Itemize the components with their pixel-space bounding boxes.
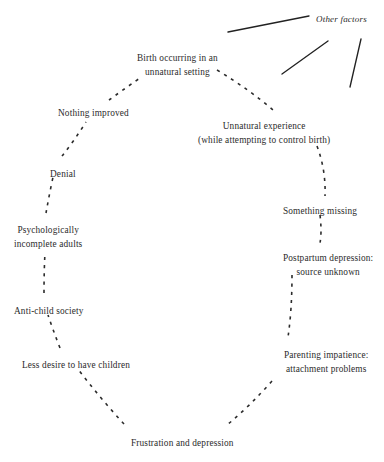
edge-frustration-to-less-desire [78, 369, 124, 424]
node-label-line: Something missing [283, 205, 357, 219]
edge-unnatural-exp-to-something-missing [317, 146, 325, 196]
node-nothing-improved: Nothing improved [58, 107, 129, 121]
node-label-line: Parenting impatience: [284, 349, 368, 363]
edge-anti-child-to-incomplete-adults [44, 252, 45, 293]
node-psychologically-incomplete-adults: Psychologicallyincomplete adults [14, 224, 82, 251]
node-label-line: Denial [50, 168, 76, 182]
node-label-line: Birth occurring in an [137, 52, 218, 66]
solid-arrow-group [228, 16, 361, 87]
node-label-line: unnatural setting [137, 66, 218, 80]
edge-nothing-improved-to-birth [109, 78, 140, 100]
other-factors-line-3 [350, 39, 361, 87]
node-label-line: Psychologically [14, 224, 82, 238]
other-factors-line-1 [228, 16, 309, 32]
cycle-diagram-canvas: reproductive psychology cycle Birth occu… [0, 0, 384, 462]
node-birth-unnatural-setting: Birth occurring in anunnatural setting [137, 52, 218, 79]
edge-incomplete-adults-to-denial [46, 177, 53, 213]
node-label-line: Nothing improved [58, 107, 129, 121]
edge-parenting-to-frustration [227, 381, 272, 425]
edge-something-missing-to-postpartum [320, 215, 321, 243]
other-factors-label: Other factors [316, 14, 367, 24]
node-postpartum-depression: Postpartum depression:source unknown [283, 252, 373, 279]
other-factors-line-2 [282, 41, 328, 74]
node-label-line: source unknown [283, 266, 373, 280]
node-label-line: (while attempting to control birth) [198, 134, 330, 148]
node-parenting-impatience: Parenting impatience:attachment problems [284, 349, 368, 376]
node-frustration-depression: Frustration and depression [131, 437, 234, 451]
edge-birth-to-unnatural-exp [217, 70, 273, 110]
node-something-missing: Something missing [283, 205, 357, 219]
node-unnatural-experience: Unnatural experience(while attempting to… [198, 120, 330, 147]
edge-postpartum-to-parenting [288, 275, 292, 337]
node-label-line: Anti-child society [14, 305, 84, 319]
node-label-line: Postpartum depression: [283, 252, 373, 266]
node-label-line: Frustration and depression [131, 437, 234, 451]
node-denial: Denial [50, 168, 76, 182]
edge-less-desire-to-anti-child [48, 315, 60, 348]
node-label-line: Unnatural experience [198, 120, 330, 134]
node-label-line: incomplete adults [14, 238, 82, 252]
node-label-line: Less desire to have children [22, 359, 130, 373]
node-label-line: attachment problems [284, 363, 368, 377]
edge-denial-to-nothing-improved [62, 122, 86, 156]
node-less-desire-children: Less desire to have children [22, 359, 130, 373]
node-anti-child-society: Anti-child society [14, 305, 84, 319]
